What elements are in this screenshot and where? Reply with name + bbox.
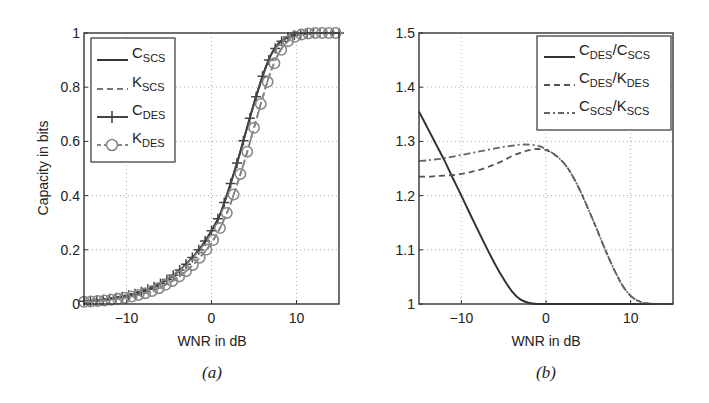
- x-tick-label: −10: [449, 310, 473, 326]
- panel-label-b: (b): [536, 363, 556, 382]
- y-tick-label: 0.4: [61, 188, 81, 204]
- circle-marker: [107, 140, 118, 151]
- y-tick-label: 0.6: [61, 133, 81, 149]
- chart-panel-a: −1001000.20.40.60.81 WNR in dB Capacity …: [35, 25, 344, 382]
- x-tick-label: 0: [542, 310, 550, 326]
- x-tick-label: 10: [623, 310, 639, 326]
- y-tick-label: 1.2: [396, 188, 416, 204]
- y-tick-label: 0.8: [61, 79, 81, 95]
- y-axis-label-a: Capacity in bits: [35, 121, 51, 216]
- x-axis-label-b: WNR in dB: [511, 333, 580, 349]
- y-tick-label: 1.4: [396, 79, 416, 95]
- y-tick-label: 1.5: [396, 25, 416, 41]
- x-tick-label: −10: [115, 310, 139, 326]
- y-tick-label: 0: [72, 296, 80, 312]
- legend-a: CSCSKSCSCDESKDES: [91, 38, 175, 162]
- x-axis-label-a: WNR in dB: [177, 333, 246, 349]
- y-tick-label: 0.2: [61, 242, 81, 258]
- y-tick-label: 1: [407, 296, 415, 312]
- y-tick-label: 1.3: [396, 133, 416, 149]
- panel-label-a: (a): [202, 363, 222, 382]
- x-tick-label: 0: [208, 310, 216, 326]
- figure: −1001000.20.40.60.81 WNR in dB Capacity …: [0, 0, 709, 403]
- y-tick-label: 1.1: [396, 242, 416, 258]
- legend-b: CDES/CSCSCDES/KDESCSCS/KSCS: [537, 36, 671, 130]
- chart-panel-b: −1001011.11.21.31.41.5 WNR in dB (b) CDE…: [396, 25, 673, 382]
- x-tick-label: 10: [289, 310, 305, 326]
- y-tick-label: 1: [72, 25, 80, 41]
